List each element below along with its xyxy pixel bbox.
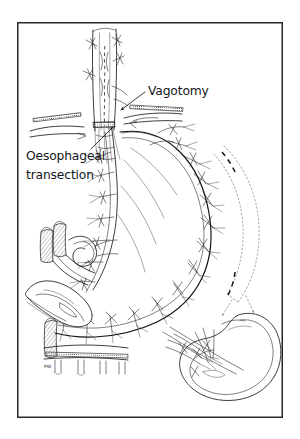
transection-line-band: [93, 123, 115, 128]
illustration-canvas: Vagotomy Oesophageal transection PW: [0, 0, 300, 439]
vagotomy-label: Vagotomy: [148, 84, 209, 98]
gastric-branch-hatched: [53, 224, 66, 257]
oesophageal-transection-label-line2: transection: [26, 168, 94, 182]
coeliac-trunk-hatched: [40, 230, 53, 263]
surgical-illustration-figure: Vagotomy Oesophageal transection PW: [0, 0, 300, 439]
artist-signature: PW: [44, 364, 52, 369]
oesophageal-transection-label-line1: Oesophageal: [26, 149, 105, 163]
